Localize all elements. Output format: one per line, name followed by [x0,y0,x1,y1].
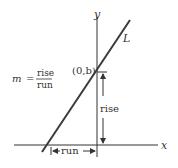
intercept-label: (0,b) [72,65,96,76]
x-axis-label: x [161,139,168,152]
y-axis-label: y [93,8,101,21]
formula-denominator: run [37,80,53,90]
formula-numerator: rise [37,68,54,78]
slope-formula: m = rise run [12,68,54,90]
slope-diagram: x y L (0,b) rise run m = rise run [0,0,178,168]
run-label: run [61,145,79,156]
line-L-label: L [122,32,130,45]
rise-label: rise [100,103,119,114]
formula-equals: = [26,73,34,84]
line-L [42,20,130,152]
formula-variable: m [12,73,21,84]
